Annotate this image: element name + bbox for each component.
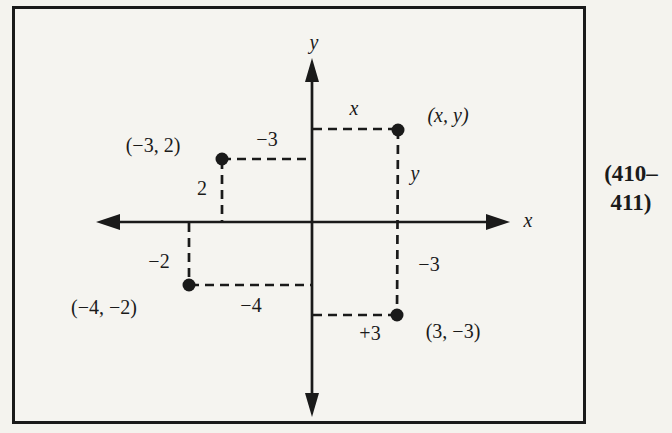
y-axis-top-arrowhead (305, 58, 319, 82)
point-neg4-neg2-label: (−4, −2) (71, 297, 137, 317)
point-neg3-2-x-distance-label: −3 (256, 129, 277, 149)
generic-point-y-distance-label: y (411, 163, 420, 183)
coordinate-plane (0, 0, 672, 433)
point-3-neg3-label: (3, −3) (426, 321, 481, 341)
generic-point-dot (392, 124, 405, 137)
point-neg3-2-dot (216, 153, 229, 166)
point-neg3-2-y-distance-label: 2 (197, 178, 207, 198)
x-axis-right-arrowhead (486, 214, 510, 230)
page-reference-line2: 411) (604, 188, 658, 217)
page-reference: (410– 411) (604, 159, 658, 218)
y-axis-bottom-arrowhead (305, 393, 319, 417)
page-reference-line1: (410– (604, 159, 658, 188)
generic-point-label: (x, y) (427, 105, 468, 125)
figure-page: y x (x, y) x y (−3, 2) −3 2 (−4, −2) −4 … (0, 0, 672, 433)
point-3-neg3-x-distance-label: +3 (359, 323, 380, 343)
x-axis-left-arrowhead (96, 214, 120, 230)
point-neg4-neg2-dot (183, 279, 196, 292)
point-3-neg3-y-distance-label: −3 (418, 254, 439, 274)
xy-vertical-dash (397, 130, 398, 315)
point-3-neg3-dot (391, 309, 404, 322)
point-neg3-2-label: (−3, 2) (126, 135, 181, 155)
point-neg4-neg2-x-distance-label: −4 (240, 295, 261, 315)
y-axis-label: y (310, 32, 319, 52)
point-neg4-neg2-y-distance-label: −2 (148, 251, 169, 271)
x-axis-label: x (524, 210, 533, 230)
generic-point-x-distance-label: x (350, 98, 359, 118)
